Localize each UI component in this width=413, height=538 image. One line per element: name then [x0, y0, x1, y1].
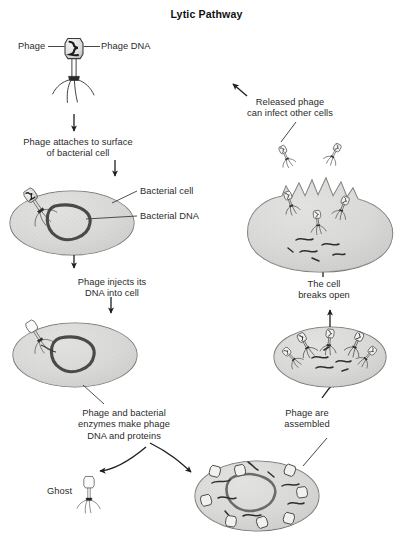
diagram-canvas: Lytic Pathway [0, 0, 413, 538]
stage-assembly [274, 310, 386, 398]
label-biosynthesis: Phage and bacterial enzymes make phage D… [58, 408, 190, 442]
label-ghost: Ghost [47, 486, 72, 497]
released-phages [275, 141, 345, 170]
label-assembled: Phage are assembled [270, 408, 344, 431]
flow-arrow-ghost [100, 447, 146, 471]
label-injection: Phage injects its DNA into cell [48, 277, 176, 300]
leader-assembled [303, 438, 327, 466]
lytic-pathway-illustration [0, 0, 413, 538]
stage-free-phage [48, 38, 100, 131]
label-phage: Phage [18, 41, 45, 52]
stage-injection [13, 297, 137, 404]
leader-enzymes [83, 385, 104, 404]
label-attachment: Phage attaches to surface of bacterial c… [14, 137, 142, 160]
stage-attachment [10, 160, 137, 268]
stage-biosynthesis [77, 438, 327, 531]
label-breaks-open: The cell breaks open [289, 279, 359, 302]
label-phage-dna: Phage DNA [101, 41, 151, 52]
flow-arrow-5 [150, 443, 191, 472]
label-bacterial-dna: Bacterial DNA [140, 211, 199, 222]
label-bacterial-cell: Bacterial cell [140, 186, 193, 197]
leader-released [281, 122, 296, 142]
flow-arrow-9 [233, 84, 247, 96]
label-released: Released phage can infect other cells [219, 97, 361, 120]
